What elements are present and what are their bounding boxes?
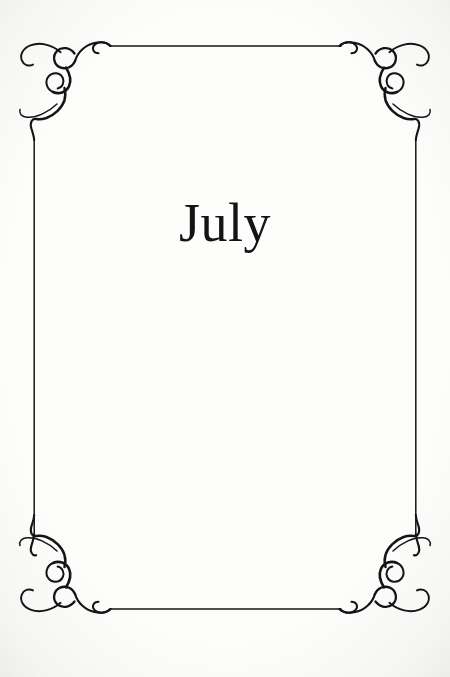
page-title: July	[179, 196, 271, 250]
title-block: July	[0, 0, 450, 677]
divider-page: July	[0, 0, 450, 677]
